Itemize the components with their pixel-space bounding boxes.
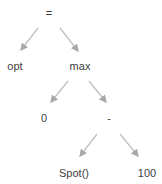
node-hundred: 100	[138, 167, 156, 179]
node-minus: -	[107, 112, 111, 124]
tree-edges	[0, 0, 162, 184]
node-spot: Spot()	[59, 167, 89, 179]
edge-max-0	[51, 81, 68, 102]
edge-eq-opt	[21, 28, 38, 50]
edge-minus-100	[120, 134, 138, 156]
node-equals: =	[46, 7, 52, 19]
edge-minus-spot	[80, 134, 97, 156]
node-max: max	[70, 60, 91, 72]
edge-max-minus	[89, 81, 106, 102]
edge-eq-max	[60, 28, 78, 51]
node-opt: opt	[7, 60, 22, 72]
node-zero: 0	[41, 112, 47, 124]
